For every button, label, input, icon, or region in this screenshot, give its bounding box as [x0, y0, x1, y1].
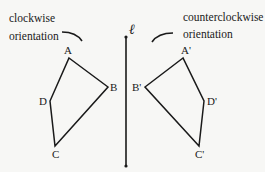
- vertex-label-c-prime: C': [195, 149, 204, 160]
- line-endpoint-bottom: [124, 164, 127, 167]
- line-endpoint-top: [124, 35, 127, 38]
- clockwise-arrow-arc: [62, 32, 82, 41]
- counterclockwise-caption-line2: orientation: [183, 29, 233, 41]
- reflection-diagram: clockwise orientation counterclockwise o…: [0, 0, 265, 172]
- clockwise-caption-line2: orientation: [9, 31, 59, 43]
- quadrilateral-abcd: [50, 58, 108, 146]
- quadrilateral-abcd-prime: [145, 58, 204, 146]
- vertex-label-a-prime: A': [181, 45, 191, 56]
- vertex-label-c: C: [52, 149, 59, 160]
- vertex-label-d: D: [39, 96, 47, 107]
- counterclockwise-caption-line1: counterclockwise: [183, 12, 263, 24]
- vertex-label-b-prime: B': [132, 82, 141, 93]
- vertex-label-a: A: [64, 45, 72, 56]
- vertex-label-d-prime: D': [207, 96, 217, 107]
- clockwise-caption-line1: clockwise: [9, 13, 55, 25]
- vertex-label-b: B: [110, 82, 117, 93]
- line-label: ℓ: [129, 23, 135, 37]
- counterclockwise-arrow-arc: [152, 33, 173, 42]
